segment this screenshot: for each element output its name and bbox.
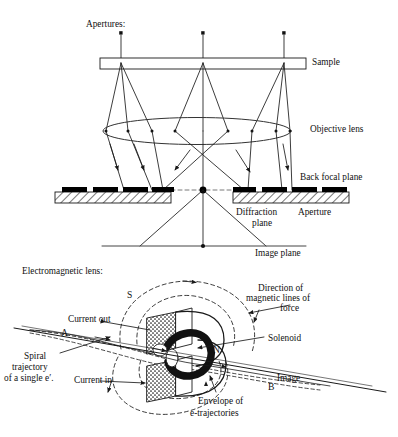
point-b-label: B [268,382,274,392]
ray-direction-arrows [110,144,288,172]
point-a-label: A [61,328,68,338]
envelope-label-line2: e-trajectories [190,408,239,418]
aperture-blocks-left [62,187,174,192]
image-plane-label: Image plane [255,248,301,258]
electromagnetic-lens-heading: Electromagnetic lens: [22,266,103,276]
sample-label: Sample [312,57,340,67]
back-focal-plane [55,187,349,203]
current-in-label: Current in [74,375,112,385]
apertures-heading: Apertures: [86,19,125,29]
em-lens-group [14,281,386,414]
rays-lens-to-bfp [106,131,292,190]
image-label: Image [277,373,300,383]
spiral-label-line2: trajectory [12,362,48,372]
figure-canvas: Apertures: Sample Objective lens Back fo… [0,0,398,437]
pole-n-label: N [213,345,220,355]
direction-label-line2: magnetic lines of [246,293,310,303]
objective-lens-ellipse [103,118,291,145]
lens-nodes [105,130,292,133]
objective-lens-label: Objective lens [310,124,363,134]
plane-label: plane [252,218,272,228]
current-out-label: Current out [68,314,111,324]
envelope-label-line1: Envelope of [198,396,243,406]
spiral-label-line3: of a single e′. [4,373,54,383]
diffraction-label: Diffraction [236,207,277,217]
back-focal-plane-label: Back focal plane [300,172,362,182]
solenoid-label: Solenoid [268,333,301,343]
direction-label-line3: force [280,303,299,313]
aperture-label: Aperture [298,207,331,217]
pole-s-label: S [127,290,132,300]
spiral-label-line1: Spiral [24,351,46,361]
direction-label-line1: Direction of [258,283,303,293]
aperture-blocks-right [233,187,347,192]
